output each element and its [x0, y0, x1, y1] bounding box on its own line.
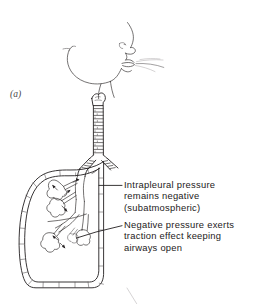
alveolar-sac-icon	[41, 180, 91, 252]
airflow-lines-icon	[135, 59, 164, 72]
bronchial-bifurcation-icon	[78, 155, 118, 177]
respiratory-figure-panel-a: (a) Intrapleural pressure remains negati…	[0, 0, 254, 306]
panel-b-partial-line	[127, 288, 137, 304]
head-profile-outline	[63, 23, 135, 99]
anatomy-illustration	[0, 0, 254, 306]
pleural-membrane-icon	[19, 170, 103, 288]
annotation-intrapleural-pressure: Intrapleural pressure remains negative (…	[124, 179, 215, 213]
larynx-icon	[92, 93, 106, 106]
bronchial-tree-icon	[48, 176, 88, 236]
panel-letter: (a)	[10, 89, 21, 99]
right-bronchus-rings	[103, 161, 116, 169]
annotation-negative-pressure: Negative pressure exerts traction effect…	[124, 219, 234, 253]
trachea-icon	[93, 106, 103, 155]
nostril-icon	[119, 43, 125, 49]
